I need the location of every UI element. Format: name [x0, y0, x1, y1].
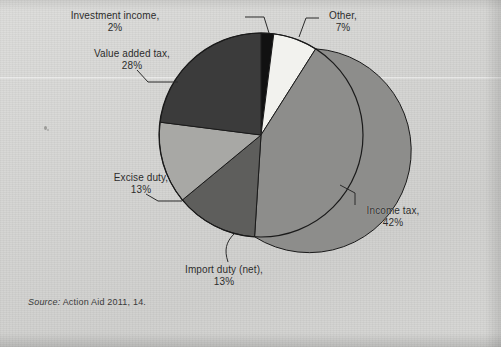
pie-label-value-added-tax-name: Value added tax	[94, 48, 167, 59]
pie-label-comma: ,	[156, 10, 159, 21]
leader-line-investment-income	[245, 17, 269, 33]
pie-slice-value-added-tax[interactable]	[160, 33, 261, 135]
pie-label-investment-income-name: Investment income	[71, 10, 157, 21]
pie-label-investment-income: Investment income, 2%	[71, 10, 160, 34]
pie-label-comma: ,	[354, 10, 357, 21]
pie-label-other: Other, 7%	[329, 10, 357, 34]
pie-label-comma: ,	[260, 264, 263, 275]
pie-label-excise-duty-name: Excise duty	[114, 172, 166, 183]
leader-line-other	[299, 18, 319, 37]
pie-label-income-tax-value: 42%	[367, 217, 420, 229]
pie-label-investment-income-value: 2%	[71, 22, 160, 34]
source-note: Source: Action Aid 2011, 14.	[28, 297, 146, 307]
pie-label-import-duty: Import duty (net), 13%	[185, 264, 263, 288]
pie-label-import-duty-name: Import duty (net)	[185, 264, 260, 275]
pie-label-other-name: Other	[329, 10, 354, 21]
pie-label-comma: ,	[167, 48, 170, 59]
pie-label-excise-duty: Excise duty, 13%	[114, 172, 168, 196]
pie-label-excise-duty-value: 13%	[114, 184, 168, 196]
pie-label-comma: ,	[417, 205, 420, 216]
pie-label-income-tax-name: Income tax	[367, 205, 417, 216]
pie-label-income-tax: Income tax, 42%	[367, 205, 420, 229]
pie-label-value-added-tax-value: 28%	[94, 60, 170, 72]
source-text: Action Aid 2011, 14.	[63, 297, 146, 307]
leader-line-import-duty	[226, 234, 234, 262]
pie-label-other-value: 7%	[329, 22, 357, 34]
source-label: Source:	[28, 297, 60, 307]
pie-label-import-duty-value: 13%	[185, 276, 263, 288]
pie-label-comma: ,	[165, 172, 168, 183]
pie-chart	[0, 0, 501, 347]
chart-page: Investment income, 2% Other, 7% Value ad…	[0, 0, 501, 347]
pie-label-value-added-tax: Value added tax, 28%	[94, 48, 170, 72]
